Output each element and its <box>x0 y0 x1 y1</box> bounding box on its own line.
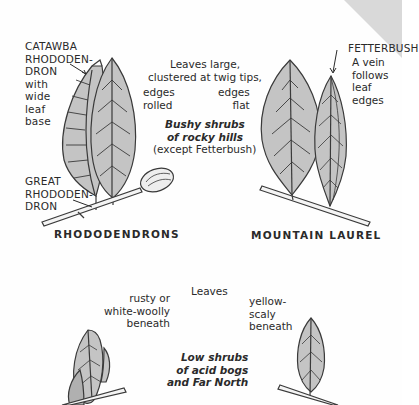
edges-flat-note: edges flat <box>218 86 250 111</box>
fetterbush-leaf-illustration <box>315 76 347 206</box>
mountain-laurel-leaf-illustration <box>261 60 320 195</box>
yellow-scaly-note: yellow- scaly beneath <box>249 295 292 333</box>
leaves-large-note: Leaves large, clustered at twig tips, <box>148 58 262 83</box>
mountain-laurel-heading: MOUNTAIN LAUREL <box>251 229 381 242</box>
fetterbush-vein-note: A vein follows leaf edges <box>352 56 388 106</box>
bushy-shrubs-habitat: Bushy shrubs of rocky hills <box>165 118 245 143</box>
edges-rolled-note: edges rolled <box>143 86 175 111</box>
great-rhododendron-label: GREAT RHODODEN- DRON <box>25 175 93 213</box>
labrador-tea-leaf-illustration <box>62 330 126 405</box>
rhododendrons-heading: RHODODENDRONS <box>54 228 180 241</box>
fetterbush-label: FETTERBUSH <box>348 42 419 55</box>
low-shrubs-habitat: Low shrubs of acid bogs and Far North <box>167 351 248 389</box>
rusty-woolly-note: rusty or white-woolly beneath <box>104 292 170 330</box>
except-fetterbush-note: (except Fetterbush) <box>153 143 256 156</box>
leaves-label: Leaves <box>191 285 228 298</box>
mountain-laurel-twig <box>260 186 370 226</box>
catawba-rhododendron-label: CATAWBA RHODODEN- DRON with wide leaf ba… <box>25 40 93 128</box>
